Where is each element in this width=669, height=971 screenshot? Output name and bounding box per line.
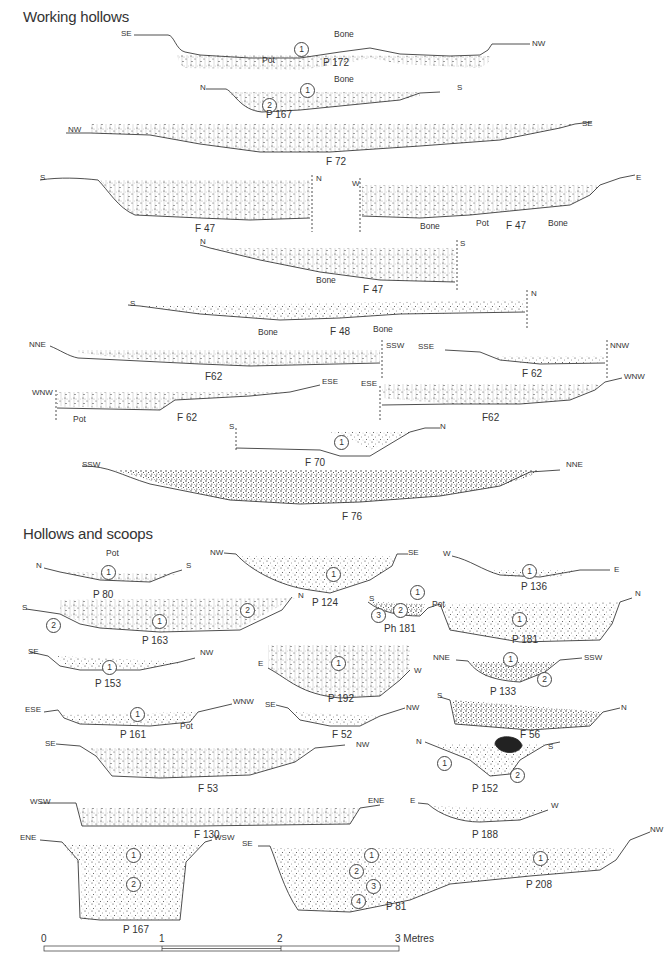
find-label-bone: Bone bbox=[334, 30, 354, 39]
context-marker: 2 bbox=[393, 603, 408, 618]
orientation-label: N bbox=[621, 704, 627, 712]
section-f56 bbox=[440, 697, 620, 730]
orientation-label: N bbox=[298, 592, 304, 600]
orientation-label: SE bbox=[408, 549, 419, 557]
orientation-label: N bbox=[440, 423, 446, 431]
section-label: P 136 bbox=[521, 582, 547, 592]
orientation-label: N bbox=[200, 238, 206, 246]
context-marker: 1 bbox=[522, 564, 537, 579]
section-label: P 124 bbox=[312, 598, 338, 608]
orientation-label: W bbox=[443, 550, 451, 558]
orientation-label: S bbox=[40, 174, 45, 182]
orientation-label: E bbox=[410, 797, 415, 805]
section-label: F 48 bbox=[330, 327, 350, 337]
orientation-label: SE bbox=[242, 840, 253, 848]
orientation-label: E bbox=[636, 174, 641, 182]
orientation-label: SE bbox=[28, 648, 39, 656]
section-label: P 81 bbox=[386, 902, 406, 912]
orientation-label: NNE bbox=[29, 341, 46, 349]
section-f52 bbox=[276, 705, 405, 726]
orientation-label: W bbox=[352, 180, 360, 188]
orientation-label: N bbox=[635, 590, 641, 598]
context-marker: 3 bbox=[371, 608, 386, 623]
section-p133 bbox=[456, 658, 582, 682]
section-f62-ese bbox=[380, 378, 622, 420]
orientation-label: WNW bbox=[233, 698, 254, 706]
orientation-label: WSW bbox=[30, 798, 50, 806]
orientation-label: NNW bbox=[610, 342, 629, 350]
context-marker: 2 bbox=[46, 618, 61, 633]
section-p192 bbox=[268, 645, 410, 698]
section-label: Ph 181 bbox=[384, 624, 416, 634]
section-label: P 80 bbox=[93, 590, 113, 600]
section-label: P 167 bbox=[123, 925, 149, 935]
section-label: P 167 bbox=[266, 110, 292, 120]
context-marker: 1 bbox=[410, 585, 425, 600]
orientation-label: N bbox=[200, 84, 206, 92]
orientation-label: S bbox=[437, 692, 442, 700]
context-marker: 2 bbox=[126, 877, 141, 892]
heading-working-hollows: Working hollows bbox=[23, 8, 129, 25]
scale-tick-2: 2 bbox=[277, 934, 283, 944]
find-label-pot: Pot bbox=[476, 219, 489, 228]
context-marker: 2 bbox=[537, 672, 552, 687]
find-label-bone: Bone bbox=[258, 328, 278, 337]
orientation-label: N bbox=[416, 738, 422, 746]
context-marker: 2 bbox=[510, 768, 525, 783]
section-f48 bbox=[128, 290, 527, 328]
orientation-label: SSE bbox=[418, 343, 434, 351]
section-p124 bbox=[224, 553, 408, 593]
orientation-label: NNE bbox=[566, 461, 583, 469]
section-drawings-figure bbox=[0, 0, 669, 971]
section-label: P 161 bbox=[120, 730, 146, 740]
section-f47-we bbox=[360, 175, 635, 232]
scale-tick-1: 1 bbox=[159, 934, 165, 944]
orientation-label: E bbox=[614, 566, 619, 574]
orientation-label: S bbox=[186, 562, 191, 570]
scale-bar bbox=[44, 946, 399, 951]
section-label: P 153 bbox=[95, 679, 121, 689]
orientation-label: S bbox=[130, 300, 135, 308]
orientation-label: NW bbox=[356, 741, 369, 749]
context-marker: 1 bbox=[364, 848, 379, 863]
orientation-label: NW bbox=[650, 826, 663, 834]
section-label: P 152 bbox=[472, 784, 498, 794]
section-label: F 76 bbox=[342, 512, 362, 522]
find-label-bone: Bone bbox=[373, 325, 393, 334]
context-marker: 1 bbox=[294, 42, 309, 57]
orientation-label: S bbox=[369, 595, 374, 603]
context-marker: 1 bbox=[130, 707, 145, 722]
section-f53 bbox=[56, 744, 345, 778]
section-label: F 53 bbox=[198, 784, 218, 794]
context-marker: 1 bbox=[437, 756, 452, 771]
context-marker: 1 bbox=[101, 565, 116, 580]
section-label: F 62 bbox=[522, 369, 542, 379]
orientation-label: S bbox=[548, 743, 553, 751]
section-f76 bbox=[82, 466, 560, 504]
section-p188 bbox=[418, 803, 548, 822]
section-f72 bbox=[66, 122, 592, 152]
orientation-label: N bbox=[36, 562, 42, 570]
section-label: F62 bbox=[482, 413, 499, 423]
context-marker: 1 bbox=[152, 614, 167, 629]
context-marker: 4 bbox=[351, 894, 366, 909]
orientation-label: SSW bbox=[584, 654, 602, 662]
find-label-pot: Pot bbox=[106, 549, 119, 558]
section-label: P 172 bbox=[323, 58, 349, 68]
context-marker: 1 bbox=[512, 612, 527, 627]
orientation-label: ENE bbox=[368, 797, 384, 805]
find-label-pot: Pot bbox=[180, 722, 193, 731]
context-marker: 1 bbox=[334, 435, 349, 450]
section-label: F 56 bbox=[520, 730, 540, 740]
context-marker: 2 bbox=[349, 864, 364, 879]
section-p81-p208 bbox=[258, 832, 650, 912]
orientation-label: NW bbox=[200, 649, 213, 657]
orientation-label: E bbox=[258, 660, 263, 668]
find-label-bone: Bone bbox=[334, 75, 354, 84]
section-label: F 47 bbox=[195, 224, 215, 234]
section-label: P 181 bbox=[512, 635, 538, 645]
orientation-label: NW bbox=[406, 704, 419, 712]
find-label-pot: Pot bbox=[262, 56, 275, 65]
orientation-label: S bbox=[229, 423, 234, 431]
orientation-label: S bbox=[460, 240, 465, 248]
